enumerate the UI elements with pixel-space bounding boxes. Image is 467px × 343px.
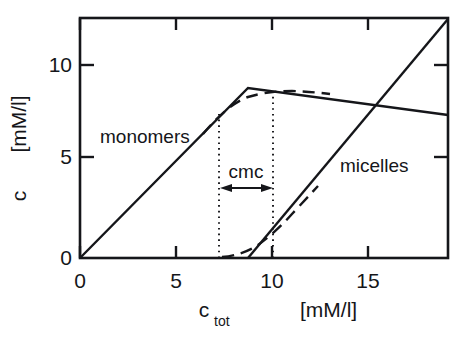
- x-tick-label-5: 5: [170, 269, 182, 292]
- micelles-dashed-curve: [222, 186, 318, 257]
- x-axis-title-main: c: [199, 298, 210, 321]
- cmc-arrow-head-right: [261, 184, 273, 192]
- y-axis-title: c: [7, 191, 30, 202]
- y-tick-label-5: 5: [60, 145, 72, 168]
- cmc-range-arrow: [220, 184, 273, 192]
- y-axis-units: [mM/l]: [7, 95, 30, 152]
- cmc-label: cmc: [229, 161, 264, 182]
- x-axis-title-group: c tot [mM/l]: [199, 298, 357, 329]
- y-tick-label-0: 0: [60, 246, 72, 269]
- cmc-arrow-head-left: [220, 184, 232, 192]
- monomers-label: monomers: [100, 126, 190, 147]
- x-tick-label-15: 15: [356, 269, 379, 292]
- x-tick-label-0: 0: [74, 269, 86, 292]
- x-axis-units: [mM/l]: [300, 298, 357, 321]
- micelles-label: micelles: [340, 155, 409, 176]
- x-tick-label-10: 10: [260, 269, 283, 292]
- y-tick-label-10: 10: [49, 53, 72, 76]
- x-axis-title-subscript: tot: [214, 313, 230, 329]
- micelles-solid-curve: [248, 19, 448, 258]
- chart-canvas: 0 5 10 15 10 5 0 c [mM/l] c tot [mM/l] m…: [0, 0, 467, 343]
- figure-container: 0 5 10 15 10 5 0 c [mM/l] c tot [mM/l] m…: [0, 0, 467, 343]
- y-axis-title-group: c [mM/l]: [7, 95, 30, 201]
